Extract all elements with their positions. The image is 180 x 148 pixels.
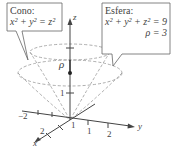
x-axis-label: x <box>33 138 37 148</box>
cone-callout: Cono: x² + y² = z² <box>10 5 55 27</box>
cone-title: Cono: <box>10 5 55 16</box>
sphere-title: Esfera: <box>105 5 167 16</box>
z-tick-1: 1 <box>60 88 65 98</box>
y-tick-2: 2 <box>107 129 112 139</box>
z-axis-label: z <box>73 12 77 22</box>
sphere-rho: ρ = 3 <box>105 27 167 38</box>
x-tick-2: 2 <box>40 126 45 136</box>
rho-vector <box>68 60 72 75</box>
y-tick-neg2: −2 <box>18 111 28 121</box>
cone-equation: x² + y² = z² <box>10 16 55 27</box>
x-tick-1: 1 <box>71 120 76 130</box>
y-axis-label: y <box>138 121 142 131</box>
rho-label: ρ <box>59 58 64 70</box>
sphere-equation: x² + y² + z² = 9 <box>105 16 167 27</box>
sphere-callout: Esfera: x² + y² + z² = 9 ρ = 3 <box>105 5 167 38</box>
y-tick-1: 1 <box>87 126 92 136</box>
